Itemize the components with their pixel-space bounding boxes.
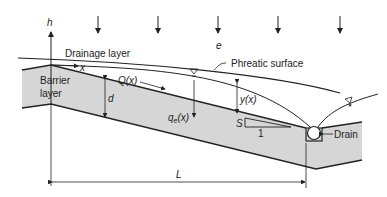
leakage-label: qe(x) <box>168 112 189 124</box>
water-table-icon <box>190 69 198 76</box>
slope-run-label: 1 <box>258 128 264 139</box>
h-axis-label: h <box>47 17 53 28</box>
barrier-layer-label: layer <box>40 88 62 99</box>
drain-label: Drain <box>334 129 358 140</box>
drainage-layer-label: Drainage layer <box>65 48 131 59</box>
phreatic-surface-right <box>318 94 378 127</box>
flow-label: Q(x) <box>118 75 137 86</box>
barrier-layer <box>22 65 362 169</box>
x-axis-label: x <box>79 62 86 73</box>
infiltration-label: e <box>216 40 222 51</box>
slope-label: S <box>236 118 243 129</box>
thickness-label: d <box>108 93 114 104</box>
landfill-drainage-diagram: h x e Drainage layer Barrier layer Q(x) … <box>0 0 387 197</box>
infiltration-arrows <box>98 16 340 33</box>
barrier-layer-label: Barrier <box>40 75 71 86</box>
head-label: y(x) <box>239 94 257 105</box>
drain-icon <box>306 127 322 142</box>
length-label: L <box>176 169 182 180</box>
phreatic-surface-label: Phreatic surface <box>231 58 304 69</box>
